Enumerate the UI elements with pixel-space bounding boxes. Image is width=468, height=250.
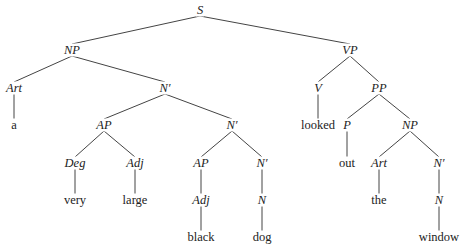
word-leaf: a: [10, 119, 18, 132]
word-leaf: window: [418, 231, 460, 244]
word-leaf: large: [122, 194, 149, 207]
tree-edge: [165, 94, 232, 119]
category-node: AP: [192, 157, 209, 170]
category-node: N: [257, 194, 267, 207]
tree-edge: [75, 131, 104, 157]
tree-edge: [232, 131, 262, 157]
tree-edge: [410, 131, 439, 157]
category-node: V: [313, 82, 323, 95]
category-node: P: [342, 119, 352, 132]
tree-edge: [72, 16, 200, 44]
tree-edge: [318, 56, 350, 82]
tree-edge: [347, 94, 379, 119]
category-node: Deg: [64, 157, 87, 170]
tree-edge: [104, 94, 165, 119]
category-node: NP: [63, 44, 81, 57]
word-leaf: out: [338, 157, 356, 170]
category-node: Adj: [125, 157, 144, 170]
tree-edge: [14, 56, 72, 82]
word-leaf: dog: [252, 231, 273, 244]
category-node: N′: [432, 157, 445, 170]
word-leaf: the: [370, 194, 387, 207]
tree-edge: [379, 131, 410, 157]
category-node: N′: [158, 82, 171, 95]
category-node: Art: [5, 82, 23, 95]
tree-edge: [200, 16, 350, 44]
tree-edge: [201, 131, 232, 157]
category-node: S: [196, 4, 204, 17]
category-node: N′: [225, 119, 238, 132]
category-node: Art: [370, 157, 388, 170]
category-node: N: [434, 194, 444, 207]
word-leaf: very: [63, 194, 87, 207]
category-node: NP: [401, 119, 419, 132]
category-node: Adj: [191, 194, 210, 207]
word-leaf: looked: [300, 119, 336, 132]
tree-edge: [350, 56, 379, 82]
category-node: PP: [370, 82, 387, 95]
category-node: VP: [341, 44, 358, 57]
tree-edge: [379, 94, 410, 119]
tree-edge: [72, 56, 165, 82]
category-node: N′: [255, 157, 268, 170]
word-leaf: black: [186, 231, 215, 244]
tree-edge: [104, 131, 135, 157]
category-node: AP: [95, 119, 112, 132]
